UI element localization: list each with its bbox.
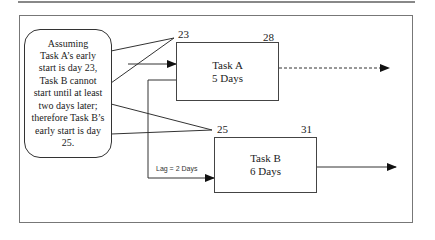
callout-line: Assuming [32,38,105,50]
callout-line: two days later; [32,100,105,112]
callout-pointer-b2 [111,130,212,134]
task-b-node: Task B 6 Days [214,137,317,193]
task-b-early-finish: 31 [301,124,312,135]
lag-label: Lag = 2 Days [156,165,197,172]
task-a-early-start: 23 [178,29,189,40]
callout-pointer-b1 [111,104,212,130]
callout-line: therefore Task B’s [32,112,105,124]
task-a-node: Task A 5 Days [176,42,279,101]
explanation-callout: Assuming Task A’s early start is day 23,… [24,29,112,158]
callout-line: Task B cannot [32,75,105,87]
task-b-early-start: 25 [217,124,228,135]
callout-line: start is day 23, [32,62,105,74]
callout-line: early start is day [32,125,105,137]
callout-line: start until at least [32,87,105,99]
task-a-duration: 5 Days [212,72,243,85]
task-b-name: Task B [250,152,281,165]
callout-line: 25. [32,137,105,149]
task-b-duration: 6 Days [250,165,281,178]
callout-line: Task A’s early [32,50,105,62]
task-a-name: Task A [212,59,243,72]
